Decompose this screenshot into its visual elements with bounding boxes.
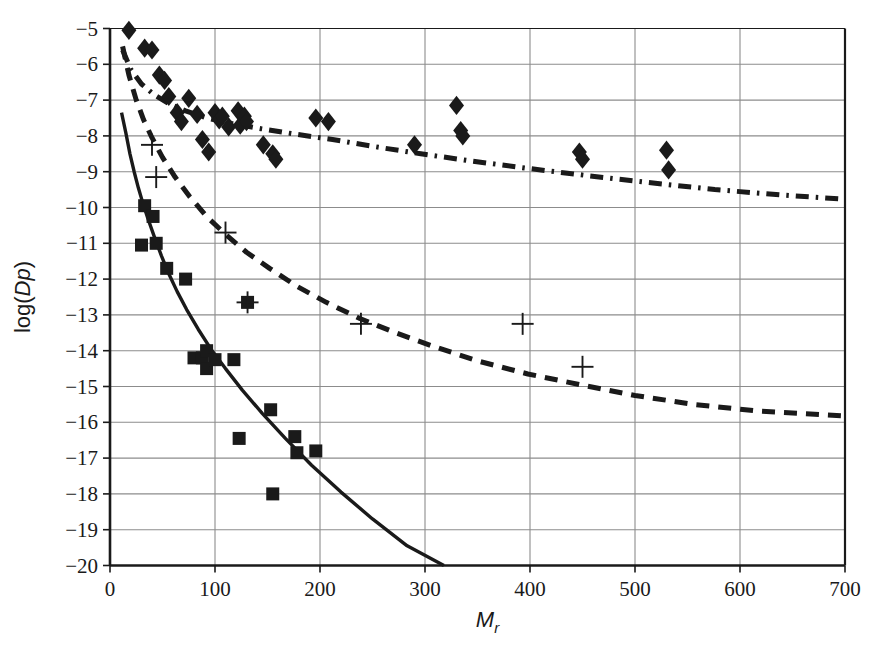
data-point-square bbox=[288, 430, 301, 443]
data-point-square bbox=[264, 403, 277, 416]
data-point-plus bbox=[237, 291, 259, 313]
x-tick-label: 200 bbox=[304, 577, 336, 601]
figure-container: −20−19−18−17−16−15−14−13−12−11−10−9−8−7−… bbox=[0, 0, 881, 660]
y-tick-label: −11 bbox=[66, 231, 98, 255]
grid-lines bbox=[110, 29, 845, 566]
x-tick-label: 400 bbox=[514, 577, 546, 601]
y-tick-label: −12 bbox=[65, 267, 98, 291]
data-point-diamond bbox=[121, 21, 136, 40]
x-tick-label: 600 bbox=[724, 577, 756, 601]
chart-canvas: −20−19−18−17−16−15−14−13−12−11−10−9−8−7−… bbox=[0, 0, 881, 660]
y-axis-title: log(Dp) bbox=[10, 261, 35, 333]
data-point-plus bbox=[572, 356, 594, 378]
y-tick-label: −20 bbox=[65, 554, 98, 578]
y-tick-label: −17 bbox=[65, 446, 98, 470]
marker-layer bbox=[121, 21, 676, 501]
y-tick-label: −16 bbox=[65, 410, 98, 434]
y-tick-label: −5 bbox=[76, 17, 98, 41]
data-point-diamond bbox=[190, 105, 205, 124]
data-point-square bbox=[209, 353, 222, 366]
y-tick-label: −19 bbox=[65, 518, 98, 542]
data-point-diamond bbox=[449, 96, 464, 115]
y-tick-label: −8 bbox=[76, 124, 98, 148]
data-point-square bbox=[150, 237, 163, 250]
x-tick-label: 500 bbox=[619, 577, 651, 601]
y-tick-label: −13 bbox=[65, 303, 98, 327]
data-point-diamond bbox=[181, 89, 196, 108]
data-point-square bbox=[227, 353, 240, 366]
x-tick-label: 0 bbox=[105, 577, 116, 601]
x-axis-title: Mr bbox=[476, 607, 500, 636]
y-tick-label: −14 bbox=[65, 339, 98, 363]
data-point-diamond bbox=[321, 112, 336, 131]
y-tick-label: −6 bbox=[76, 52, 98, 76]
data-point-square bbox=[147, 210, 160, 223]
solid-curve bbox=[122, 113, 444, 566]
data-point-square bbox=[135, 239, 148, 252]
data-point-diamond bbox=[659, 141, 674, 160]
x-tick-label: 100 bbox=[199, 577, 231, 601]
data-point-square bbox=[160, 262, 173, 275]
y-tick-label: −15 bbox=[65, 375, 98, 399]
x-tick-label: 700 bbox=[829, 577, 861, 601]
x-tick-label: 300 bbox=[409, 577, 441, 601]
y-tick-label: −18 bbox=[65, 482, 98, 506]
data-point-square bbox=[290, 446, 303, 459]
y-tick-label: −10 bbox=[65, 196, 98, 220]
data-point-diamond bbox=[308, 108, 323, 127]
data-point-plus bbox=[145, 166, 167, 188]
data-point-diamond bbox=[661, 160, 676, 179]
data-point-square bbox=[233, 432, 246, 445]
data-point-plus bbox=[350, 313, 372, 335]
data-point-square bbox=[266, 487, 279, 500]
y-tick-label: −7 bbox=[76, 88, 98, 112]
plot-frame bbox=[110, 29, 845, 566]
y-tick-label: −9 bbox=[76, 160, 98, 184]
data-point-square bbox=[179, 273, 192, 286]
data-point-square bbox=[309, 444, 322, 457]
